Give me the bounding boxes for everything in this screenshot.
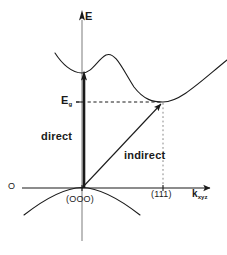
band-gap-label-subscript: g [69, 101, 73, 107]
xtick-label-gamma: (OOO) [66, 195, 94, 204]
indirect-transition-arrow [82, 104, 161, 188]
band-structure-figure: E Eg direct indirect O (OOO) (111) kxyz [0, 0, 227, 255]
xtick-label-L: (111) [151, 190, 172, 199]
indirect-transition-label: indirect [124, 150, 165, 161]
momentum-axis-label-main: k [192, 188, 198, 199]
energy-axis-label: E [85, 11, 93, 22]
momentum-axis-label: kxyz [192, 189, 207, 199]
conduction-band-curve [55, 53, 227, 102]
band-gap-label-main: E [61, 94, 69, 106]
direct-transition-label: direct [41, 131, 72, 142]
origin-label: O [8, 182, 15, 191]
momentum-axis-label-subscript: xyz [198, 194, 208, 200]
band-gap-label: Eg [61, 95, 72, 106]
band-diagram-canvas [0, 0, 227, 255]
